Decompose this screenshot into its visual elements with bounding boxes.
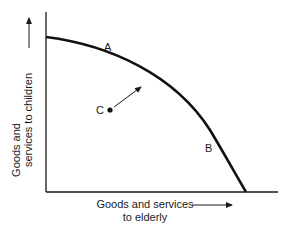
point-c-dot [107, 107, 112, 112]
y-axis-label: Goods and services to children [10, 73, 34, 177]
x-axis-label-line1: Goods and services [96, 198, 194, 210]
frontier-curve [46, 37, 246, 192]
point-label-c: C [96, 104, 104, 116]
y-axis-label-line2: services to children [22, 73, 34, 167]
point-label-a: A [104, 41, 112, 53]
ppf-diagram: A B C Goods and services to children Goo… [0, 0, 291, 235]
y-axis-label-line1: Goods and [10, 123, 22, 177]
point-label-b: B [205, 142, 212, 154]
arrow-c-to-frontier [114, 87, 141, 107]
x-axis-label-line2: to elderly [123, 211, 168, 223]
